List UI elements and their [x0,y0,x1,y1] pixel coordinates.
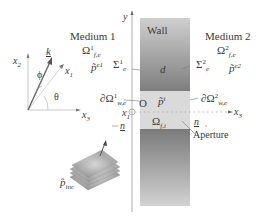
medium2-title: Medium 2 [205,31,251,42]
medium1-title: Medium 1 [70,31,116,42]
medium2-boundary: ∂Ω2w,e [201,93,227,107]
normal-left-label: n [120,121,125,131]
medium1-boundary: ∂Ω1w,e [100,93,126,107]
x2-axis-label: x2 [13,56,21,69]
medium1-interface: Σ1e [113,59,126,73]
medium1-domain: Ω1f,e [82,45,101,59]
aperture-label: Aperture [193,130,229,140]
x3-main-label: x3 [234,107,242,120]
incident-wave-icon [70,140,120,190]
x3-axis-label: x3 [82,110,90,123]
wall-label: Wall [147,25,168,36]
medium1-pressure: p̃e1 [91,62,103,73]
y-axis-label: y [123,12,127,22]
wall-thickness-label: d [160,64,166,75]
diagram-canvas: Wall d y Medium 1 Ω1f,e Σ1e p̃e1 ∂Ω1w,e … [0,0,264,216]
x1-main-label: x1 [122,108,130,121]
medium2-domain: Ω2f,e [217,45,236,59]
wall-lower [140,129,190,206]
wave-vector-k: k [46,46,51,57]
normal-right-label: n [194,117,199,127]
x1-axis-label: x1 [65,66,73,79]
aperture-domain: Ωf,i [152,116,166,130]
aperture-pressure: p̃i [158,96,165,107]
origin-label: O [139,98,147,109]
medium2-pressure: p̃e2 [229,63,241,74]
incident-pressure-label: p̂inc [60,177,74,191]
theta-angle-label: θ [54,92,59,102]
medium2-interface: Σ2e [196,59,209,73]
phi-angle-label: ϕ [37,70,42,80]
